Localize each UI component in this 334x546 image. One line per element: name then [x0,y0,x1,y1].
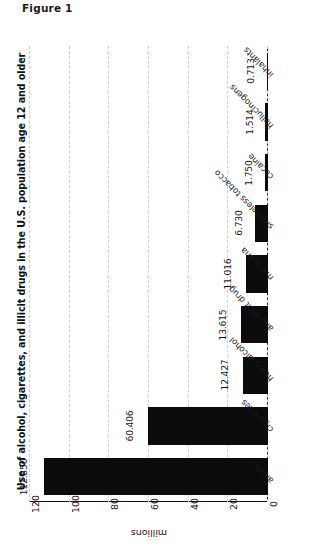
tick-label: 20 [228,498,239,510]
tick-label: 40 [189,498,200,510]
plot-area: 112.85060.40612.42713.61511.0166.7301.75… [30,46,268,502]
tick-label: 100 [70,495,81,513]
bar-slot: 1.514 [30,103,268,140]
bar-value-label: 60.406 [124,411,135,442]
bar-value-label: 13.615 [217,309,228,340]
chart-title: Use of alcohol, cigarettes, and illicit … [16,37,27,507]
bar [44,458,268,495]
bar-value-label: 112.850 [17,458,28,495]
bar-value-label: 6.730 [234,211,245,236]
tick-label: 0 [268,501,279,507]
tick-label: 60 [149,498,160,510]
bar-value-label: 12.427 [219,360,230,391]
tick-label: 80 [109,498,120,510]
value-axis-tick-labels: 120100806040200 [30,504,268,530]
bar-series: 112.85060.40612.42713.61511.0166.7301.75… [30,46,268,502]
bar-slot: 112.850 [30,458,268,495]
tick-label: 120 [30,495,41,513]
value-axis-label: millions [30,528,268,539]
figure-caption: Figure 1 [22,2,73,14]
bar-slot: 60.406 [30,407,268,444]
bar-slot: 6.730 [30,205,268,242]
figure-page: Figure 1 Use of alcohol, cigarettes, and… [0,0,334,546]
category-axis-labels: alcoholcigarettesheavy alcoholany illici… [268,46,334,502]
bar-slot: 12.427 [30,357,268,394]
